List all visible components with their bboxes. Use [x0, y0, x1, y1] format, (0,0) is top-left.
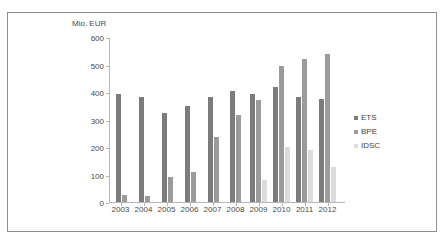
bar-bpe-2010: [279, 66, 284, 202]
bar-bpe-2008: [236, 115, 241, 202]
y-tick-mark: [106, 38, 109, 39]
chart-legend: ETSBPEIDSC: [354, 113, 380, 150]
bar-idsc-2011: [308, 150, 313, 202]
bar-bpe-2005: [168, 177, 173, 202]
bar-ets-2011: [296, 97, 301, 202]
y-tick-mark: [106, 203, 109, 204]
bar-chart: Mio. EUR 6005004003002001000 20032004200…: [8, 13, 438, 233]
y-tick-label: 100: [91, 171, 104, 180]
bar-group-2005: [156, 38, 179, 202]
bar-bpe-2003: [122, 195, 127, 202]
bar-ets-2005: [162, 113, 167, 202]
x-axis-label-2004: 2004: [132, 205, 155, 214]
x-axis-label-2006: 2006: [178, 205, 201, 214]
bar-group-2009: [247, 38, 270, 202]
bar-bpe-2007: [214, 137, 219, 202]
bar-bpe-2004: [145, 196, 150, 202]
bar-group-2012: [316, 38, 339, 202]
bar-group-2011: [293, 38, 316, 202]
y-tick-mark: [106, 148, 109, 149]
bar-group-2004: [133, 38, 156, 202]
y-axis-unit-label: Mio. EUR: [72, 19, 106, 28]
bar-group-2008: [225, 38, 248, 202]
chart-figure-frame: Mio. EUR 6005004003002001000 20032004200…: [7, 12, 437, 232]
y-tick-label: 600: [91, 34, 104, 43]
bars-layer: [110, 38, 339, 202]
bar-ets-2009: [250, 94, 255, 203]
legend-item-ets[interactable]: ETS: [354, 113, 380, 122]
y-tick-mark: [106, 176, 109, 177]
bar-ets-2003: [116, 94, 121, 202]
bar-ets-2004: [139, 97, 144, 202]
x-axis-label-2009: 2009: [247, 205, 270, 214]
bar-ets-2010: [273, 87, 278, 202]
bar-ets-2008: [230, 91, 235, 202]
y-tick-label: 300: [91, 116, 104, 125]
bar-group-2010: [270, 38, 293, 202]
legend-swatch-icon: [354, 130, 358, 134]
legend-label: IDSC: [361, 141, 380, 150]
y-tick-mark: [106, 93, 109, 94]
legend-label: ETS: [361, 113, 377, 122]
bar-idsc-2009: [262, 180, 267, 202]
bar-ets-2007: [208, 97, 213, 202]
x-axis-label-2007: 2007: [201, 205, 224, 214]
bar-bpe-2012: [325, 54, 330, 202]
y-tick-label: 200: [91, 144, 104, 153]
bar-ets-2012: [319, 99, 324, 202]
bar-ets-2006: [185, 106, 190, 202]
legend-swatch-icon: [354, 116, 358, 120]
x-axis-label-2005: 2005: [155, 205, 178, 214]
bar-idsc-2012: [331, 167, 336, 202]
y-tick-mark: [106, 121, 109, 122]
bar-idsc-2010: [285, 147, 290, 202]
bar-group-2007: [202, 38, 225, 202]
x-axis-label-2010: 2010: [270, 205, 293, 214]
plot-area: 6005004003002001000: [109, 38, 339, 203]
x-axis-label-2012: 2012: [316, 205, 339, 214]
top-cutoff-text-strip: . . .: [0, 0, 444, 9]
x-axis-label-2011: 2011: [293, 205, 316, 214]
bar-bpe-2011: [302, 59, 307, 202]
bar-group-2006: [179, 38, 202, 202]
bar-group-2003: [110, 38, 133, 202]
legend-item-idsc[interactable]: IDSC: [354, 141, 380, 150]
legend-item-bpe[interactable]: BPE: [354, 127, 380, 136]
x-axis-labels: 2003200420052006200720082009201020112012: [109, 205, 339, 214]
bar-bpe-2009: [256, 100, 261, 202]
y-tick-mark: [106, 66, 109, 67]
legend-label: BPE: [361, 127, 377, 136]
y-tick-label: 500: [91, 61, 104, 70]
x-axis-label-2008: 2008: [224, 205, 247, 214]
y-tick-label: 0: [100, 199, 104, 208]
bar-bpe-2006: [191, 172, 196, 202]
y-tick-label: 400: [91, 89, 104, 98]
legend-swatch-icon: [354, 144, 358, 148]
x-axis-label-2003: 2003: [109, 205, 132, 214]
